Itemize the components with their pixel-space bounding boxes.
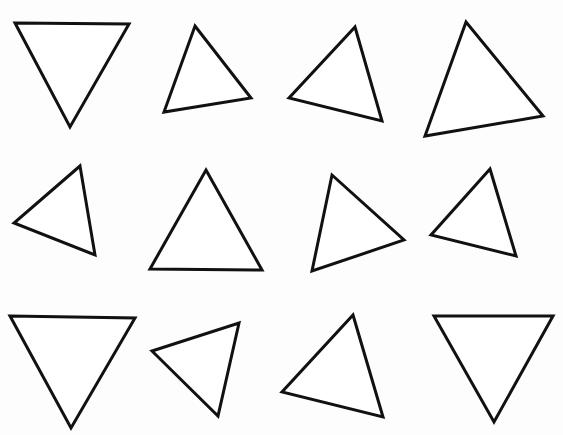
triangle-3 — [289, 27, 382, 121]
triangle-5 — [14, 166, 95, 255]
triangle-11 — [282, 315, 383, 417]
triangle-6 — [150, 170, 262, 270]
triangle-10 — [152, 323, 239, 416]
triangle-8 — [431, 169, 516, 256]
triangle-9 — [10, 316, 135, 428]
triangle-2 — [164, 26, 251, 112]
triangle-12 — [434, 316, 553, 422]
triangle-7 — [312, 175, 404, 271]
triangle-canvas — [0, 0, 563, 435]
triangle-4 — [425, 22, 543, 136]
triangle-1 — [15, 23, 129, 127]
